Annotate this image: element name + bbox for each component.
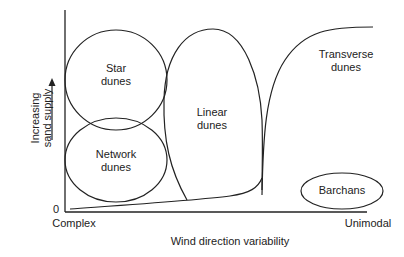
linear-label-line1: Linear [182,106,242,119]
barchans-label: Barchans [312,184,372,197]
star-label-line2: dunes [86,75,146,88]
y-label-line1: Increasing [29,83,41,153]
origin-label: 0 [50,203,62,216]
network-label-line1: Network [80,148,152,161]
network-label-line2: dunes [80,161,152,174]
transverse-label-line1: Transverse [306,48,386,61]
transverse-dunes-label: Transverse dunes [306,48,386,74]
linear-label-line2: dunes [182,119,242,132]
star-dunes-label: Star dunes [86,62,146,88]
x-axis-label: Wind direction variability [150,235,310,248]
x-left-label: Complex [44,217,104,230]
y-axis-label: Increasing sand supply [29,83,53,153]
barchans-label-text: Barchans [312,184,372,197]
star-label-line1: Star [86,62,146,75]
network-dunes-label: Network dunes [80,148,152,174]
x-right-label: Unimodal [338,217,398,230]
transverse-label-line2: dunes [306,61,386,74]
lower-boundary [70,178,262,209]
y-label-line2: sand supply [41,83,53,153]
linear-dunes-label: Linear dunes [182,106,242,132]
